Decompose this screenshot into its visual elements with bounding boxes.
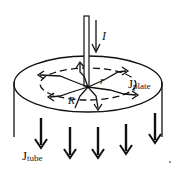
radius-R-label: R (67, 94, 75, 106)
current-distribution-diagram: I r R Jplate Jtube (0, 0, 173, 171)
current-arrow-icon (92, 20, 100, 52)
current-label: I (101, 29, 107, 43)
wire (84, 16, 89, 86)
radius-r-label: r (100, 74, 105, 86)
diagram-canvas: I r R Jplate Jtube (0, 0, 173, 171)
j-tube-label: Jtube (22, 148, 43, 163)
tube-current-arrows (35, 113, 161, 158)
j-plate-label: Jplate (128, 76, 151, 91)
